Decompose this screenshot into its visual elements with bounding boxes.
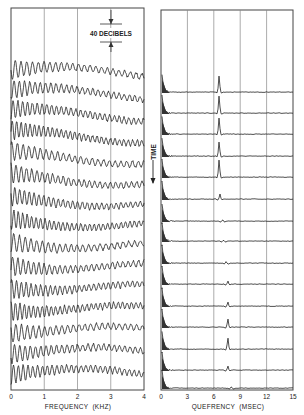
cepstrum-trace [162,75,293,93]
cepstrum-trace [162,266,293,285]
cepstrum-trace [162,117,293,135]
time-axis-indicator: TIME [150,144,157,184]
tick-label: 0 [9,393,13,400]
tick-label: 6 [212,393,216,400]
cepstrum-low-quefrency [162,121,170,135]
tick-label: 0 [159,393,163,400]
tick-label: 3 [186,393,190,400]
tick-label: 4 [142,393,146,400]
cepstrum-panel: 03691215 QUEFRENCY (MSEC) [159,10,297,411]
cepstrum-trace [162,159,293,178]
cepstrum-trace [162,204,293,222]
cepstrum-trace [162,95,293,114]
tick-label: 15 [289,393,297,400]
quefrency-tick-labels: 03691215 [159,393,297,400]
tick-label: 2 [76,393,80,400]
cepstrum-trace [162,181,293,200]
cepstrum-trace [162,139,293,158]
tick-label: 9 [238,393,242,400]
tick-label: 1 [42,393,46,400]
cepstrum-traces [162,75,293,389]
cepstrum-figure: 40 DECIBELS 01234 FREQUENCY (KHZ) TIME 0… [0,0,304,415]
tick-label: 3 [109,393,113,400]
cepstrum-trace [162,332,293,350]
cepstrum-gridlines [187,10,266,390]
cepstrum-trace [162,370,293,389]
cepstrum-trace [162,288,293,307]
cepstrum-trace [162,309,293,328]
cepstrum-low-quefrency [162,186,170,200]
tick-label: 12 [263,393,271,400]
quefrency-axis-title: QUEFRENCY (MSEC) [192,403,265,411]
decibel-scale-label: 40 DECIBELS [90,30,133,37]
spectrum-panel: 40 DECIBELS 01234 FREQUENCY (KHZ) [9,8,146,411]
cepstrum-low-quefrency [162,314,170,328]
frequency-axis-title: FREQUENCY (KHZ) [45,403,111,411]
time-axis-label: TIME [150,144,157,160]
cepstrum-trace [162,223,293,242]
cepstrum-frame [161,10,293,390]
cepstrum-trace [162,245,293,264]
frequency-tick-labels: 01234 [9,393,146,400]
cepstrum-trace [162,352,293,371]
